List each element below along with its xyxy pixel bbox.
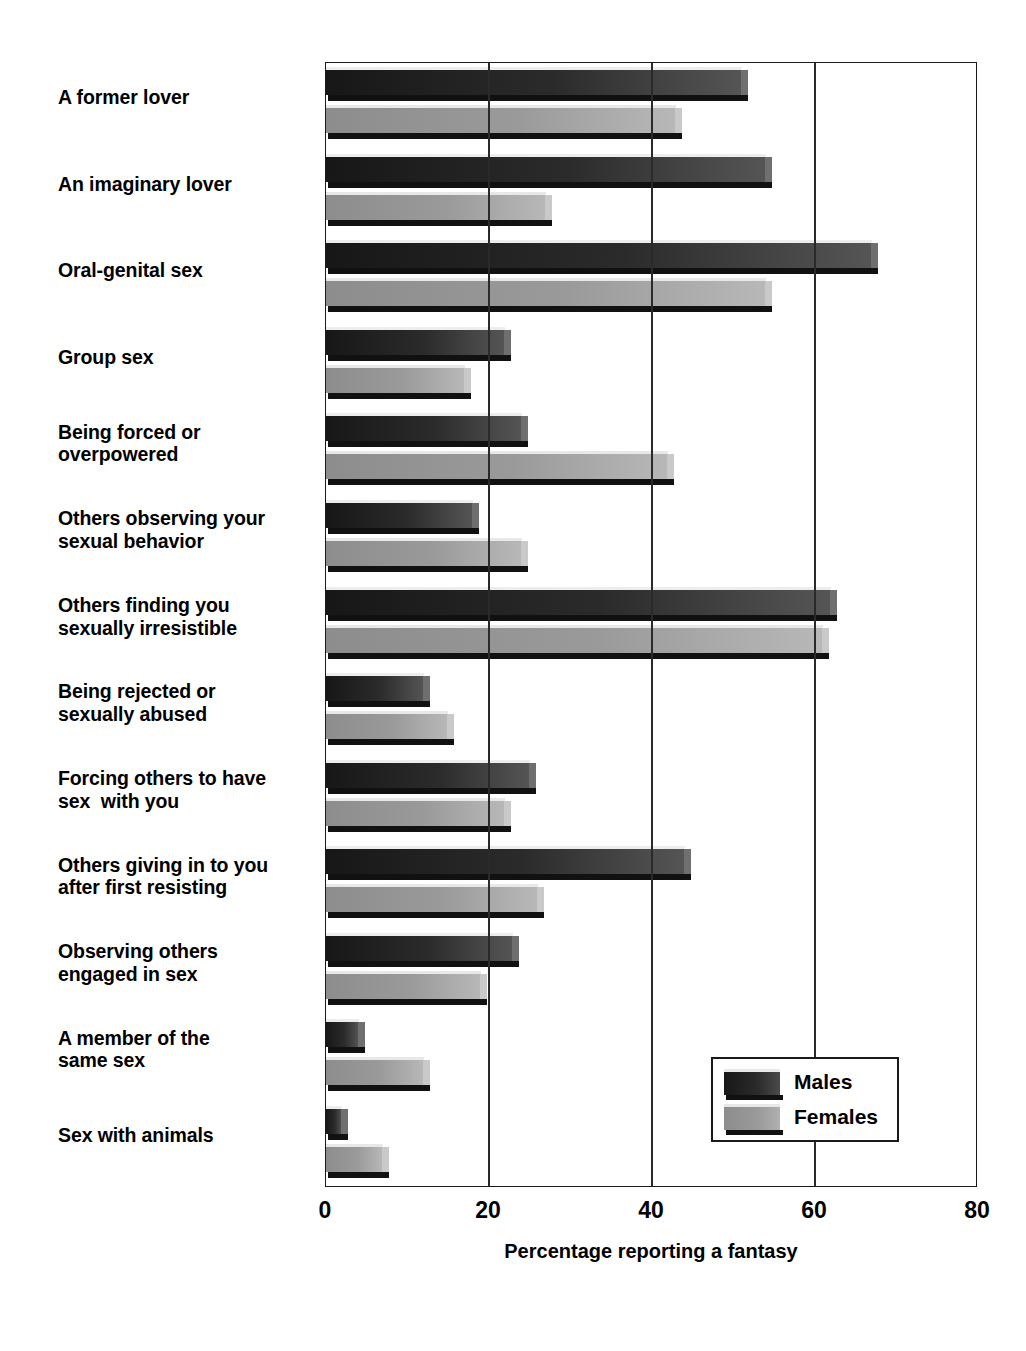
bar-cap [822, 628, 829, 656]
legend-swatch-females [724, 1104, 780, 1130]
bar-shadow [328, 566, 528, 572]
category-label-11: A member of the same sex [58, 1027, 308, 1072]
bar-face [326, 413, 522, 441]
chart-legend: Males Females [711, 1057, 899, 1142]
x-tick-label-0: 0 [319, 1197, 332, 1224]
bar-face [326, 327, 505, 355]
bar-females-3 [326, 365, 465, 393]
bar-face [326, 105, 676, 133]
bar-cap [423, 676, 430, 704]
bar-face [326, 451, 668, 479]
bar-males-7 [326, 673, 424, 701]
bar-males-8 [326, 760, 530, 788]
bar-cap [667, 454, 674, 482]
bar-cap [521, 541, 528, 569]
bar-shadow [328, 355, 511, 361]
x-tick-label-20: 20 [475, 1197, 501, 1224]
bar-shadow [328, 133, 682, 139]
bar-shadow [328, 1134, 348, 1140]
bar-males-11 [326, 1019, 359, 1047]
bar-shadow [328, 961, 519, 967]
bar-males-1 [326, 154, 766, 182]
bar-shadow [328, 268, 878, 274]
bar-shadow [328, 441, 528, 447]
bar-cap [830, 590, 837, 618]
bar-males-10 [326, 933, 513, 961]
bar-females-0 [326, 105, 676, 133]
bar-face [326, 933, 513, 961]
bar-females-10 [326, 971, 481, 999]
bar-chart-figure: A former loverAn imaginary loverOral-gen… [0, 0, 1026, 1351]
bar-shadow [328, 95, 748, 101]
bar-males-4 [326, 413, 522, 441]
bar-face [326, 798, 505, 826]
bar-females-6 [326, 625, 823, 653]
bar-cap [675, 108, 682, 136]
legend-swatch-males [724, 1069, 780, 1095]
x-tick-label-80: 80 [964, 1197, 990, 1224]
legend-label-males: Males [794, 1070, 852, 1094]
x-axis-ticks: 020406080 [325, 1187, 977, 1227]
bar-shadow [328, 653, 829, 659]
bar-cap [871, 243, 878, 271]
legend-label-females: Females [794, 1105, 878, 1129]
bar-face [326, 1019, 359, 1047]
bar-shadow [328, 912, 544, 918]
bar-males-2 [326, 240, 872, 268]
category-label-7: Being rejected or sexually abused [58, 680, 308, 725]
plot-area [325, 62, 977, 1187]
bar-shadow [328, 999, 487, 1005]
bar-face [326, 1144, 383, 1172]
bar-face [326, 240, 872, 268]
gridline-40 [651, 63, 653, 1186]
bar-cap [480, 974, 487, 1002]
bar-face [326, 192, 546, 220]
bar-face [326, 625, 823, 653]
bar-shadow [328, 788, 536, 794]
category-label-12: Sex with animals [58, 1124, 308, 1147]
bar-females-1 [326, 192, 546, 220]
bar-shadow [328, 826, 511, 832]
bar-face [326, 587, 831, 615]
bar-face [326, 538, 522, 566]
bar-cap [504, 801, 511, 829]
bar-females-8 [326, 798, 505, 826]
bar-cap [512, 936, 519, 964]
bar-face [326, 884, 538, 912]
bar-shadow [328, 220, 552, 226]
category-label-10: Observing others engaged in sex [58, 940, 308, 985]
category-label-5: Others observing your sexual behavior [58, 507, 308, 552]
bar-cap [765, 281, 772, 309]
bar-cap [684, 849, 691, 877]
x-tick-label-60: 60 [801, 1197, 827, 1224]
bar-cap [504, 330, 511, 358]
bar-females-5 [326, 538, 522, 566]
bar-face [326, 154, 766, 182]
x-tick-label-40: 40 [638, 1197, 664, 1224]
bar-cap [358, 1022, 365, 1050]
x-axis-title: Percentage reporting a fantasy [325, 1240, 977, 1263]
gridline-20 [488, 63, 490, 1186]
bar-males-6 [326, 587, 831, 615]
bar-shadow [328, 1085, 430, 1091]
bar-shadow [328, 701, 430, 707]
bar-shadow [328, 1047, 365, 1053]
gridline-60 [814, 63, 816, 1186]
bar-males-5 [326, 500, 473, 528]
category-label-column: A former loverAn imaginary loverOral-gen… [58, 62, 308, 1187]
category-label-2: Oral-genital sex [58, 259, 308, 282]
bar-males-9 [326, 846, 685, 874]
bar-shadow [328, 393, 471, 399]
bar-face [326, 971, 481, 999]
bar-shadow [328, 528, 479, 534]
bar-face [326, 760, 530, 788]
bar-shadow [328, 615, 837, 621]
bar-cap [382, 1147, 389, 1175]
legend-item-females: Females [724, 1102, 878, 1132]
bar-face [326, 711, 448, 739]
bar-face [326, 500, 473, 528]
bar-cap [529, 763, 536, 791]
bar-males-12 [326, 1106, 342, 1134]
bar-face [326, 365, 465, 393]
bar-face [326, 278, 766, 306]
